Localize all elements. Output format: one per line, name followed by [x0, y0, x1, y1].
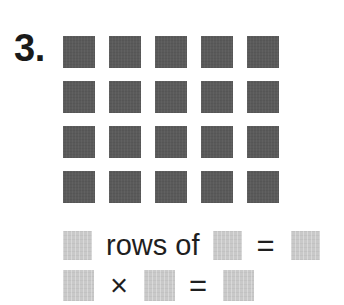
blank-box-product[interactable] — [223, 270, 254, 301]
array-grid — [63, 36, 279, 203]
array-square — [63, 171, 95, 203]
array-square — [109, 81, 141, 113]
array-square — [201, 81, 233, 113]
array-square — [155, 36, 187, 68]
worksheet-problem-page: 3. rows of = × = — [0, 0, 344, 305]
equals-icon: = — [256, 230, 274, 261]
problem-number-label: 3. — [14, 29, 45, 67]
array-square — [201, 126, 233, 158]
array-square — [155, 171, 187, 203]
rows-of-text: rows of — [106, 231, 199, 260]
blank-box-total-1[interactable] — [291, 231, 320, 260]
blank-box-per-row[interactable] — [213, 231, 242, 260]
multiply-icon: × — [110, 270, 128, 301]
array-square — [63, 126, 95, 158]
blank-box-factor-1[interactable] — [63, 270, 94, 301]
array-square — [201, 171, 233, 203]
array-square — [63, 36, 95, 68]
array-square — [155, 126, 187, 158]
array-square — [247, 171, 279, 203]
answer-line-rows-of: rows of = — [63, 228, 320, 262]
array-square — [247, 126, 279, 158]
array-square — [109, 36, 141, 68]
equals-icon: = — [189, 270, 207, 301]
blank-box-rows[interactable] — [63, 231, 92, 260]
answer-line-multiplication: × = — [63, 268, 254, 302]
array-square — [201, 36, 233, 68]
array-square — [63, 81, 95, 113]
array-square — [109, 171, 141, 203]
array-square — [247, 36, 279, 68]
array-square — [155, 81, 187, 113]
blank-box-factor-2[interactable] — [144, 270, 175, 301]
array-square — [247, 81, 279, 113]
array-square — [109, 126, 141, 158]
